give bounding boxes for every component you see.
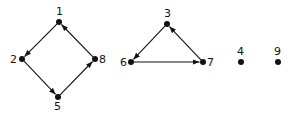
node-5: 5	[54, 94, 61, 113]
node-dot	[56, 19, 62, 25]
edge-7-to-3	[169, 27, 201, 60]
edge-5-to-8	[60, 62, 92, 95]
node-3: 3	[164, 7, 171, 27]
node-8: 8	[92, 53, 106, 66]
node-dot	[238, 59, 244, 65]
edge-1-to-2	[24, 24, 56, 56]
node-9: 9	[274, 45, 281, 65]
nodes-group: 128536749	[10, 5, 281, 113]
edge-3-to-6	[133, 26, 165, 59]
node-6: 6	[120, 56, 134, 69]
node-7: 7	[200, 56, 214, 69]
node-dot	[92, 56, 98, 62]
edge-2-to-5	[24, 61, 56, 94]
node-label: 7	[207, 56, 214, 69]
node-1: 1	[56, 5, 63, 25]
node-4: 4	[237, 45, 244, 65]
node-label: 8	[99, 53, 106, 66]
directed-graph-diagram: 128536749	[0, 0, 294, 114]
node-label: 2	[10, 53, 17, 66]
node-label: 6	[120, 56, 127, 69]
node-label: 5	[54, 100, 61, 113]
node-dot	[19, 56, 25, 62]
node-2: 2	[10, 53, 25, 66]
node-label: 3	[164, 7, 171, 20]
node-dot	[200, 59, 206, 65]
node-label: 1	[56, 5, 63, 18]
node-label: 4	[237, 45, 244, 58]
node-dot	[275, 59, 281, 65]
edges-group	[24, 24, 201, 95]
edge-8-to-1	[61, 25, 92, 57]
node-dot	[164, 21, 170, 27]
node-dot	[128, 59, 134, 65]
node-label: 9	[274, 45, 281, 58]
